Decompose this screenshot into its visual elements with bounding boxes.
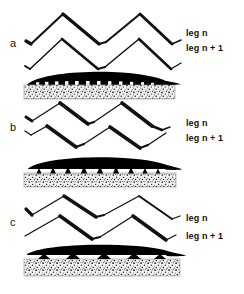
leg-n1-label-c: leg n + 1 [186, 232, 223, 241]
leg-n-label-c: leg n [186, 214, 208, 223]
leg-n-trace-a [26, 14, 181, 44]
figure-canvas: a [0, 0, 244, 294]
leg-n1-label-a: leg n + 1 [186, 44, 223, 53]
substrate-block-c [24, 259, 180, 276]
panel-b-graphics [0, 97, 244, 194]
blade-b [28, 157, 182, 173]
blade-c [27, 245, 186, 259]
panel-b: b [0, 97, 244, 194]
leg-n-label-b: leg n [186, 119, 208, 128]
panel-c: c [0, 192, 244, 294]
leg-n1-trace-c [25, 216, 176, 240]
leg-n-label-a: leg n [186, 29, 208, 38]
substrate-block-b [24, 173, 176, 187]
leg-n1-label-b: leg n + 1 [186, 134, 223, 143]
leg-n1-trace-b [25, 126, 166, 148]
panel-c-graphics [0, 192, 244, 294]
leg-n-trace-c [26, 196, 180, 219]
blade-a [27, 72, 181, 85]
panel-a: a [0, 0, 244, 100]
